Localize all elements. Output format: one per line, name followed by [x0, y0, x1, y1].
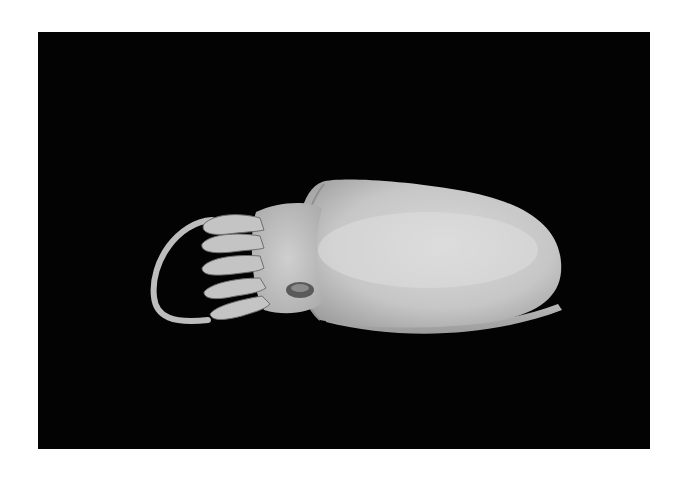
arms: [202, 215, 270, 320]
specimen-photo: Photograph of a preserved cuttlefish spe…: [38, 32, 650, 449]
cuttlebone-highlight: [318, 212, 538, 288]
cuttlefish-illustration: [38, 32, 650, 449]
